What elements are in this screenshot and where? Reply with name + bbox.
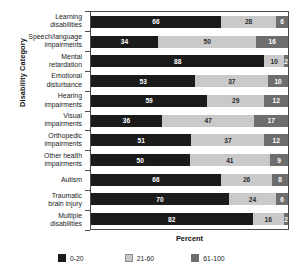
bar-row: 82162 xyxy=(91,209,288,229)
bar-segment-61-100: 17 xyxy=(254,115,287,127)
segment-value-label: 12 xyxy=(272,137,279,144)
stacked-bar: 592912 xyxy=(91,95,288,107)
bar-segment-0-20: 51 xyxy=(91,134,191,146)
segment-value-label: 51 xyxy=(138,137,145,144)
segment-value-label: 12 xyxy=(272,97,279,104)
segment-value-label: 28 xyxy=(245,18,252,25)
chart-title-clipped xyxy=(0,0,299,5)
segment-value-label: 50 xyxy=(204,38,211,45)
plot-area: 6628634501688102533710592912364717513712… xyxy=(90,11,289,230)
segment-value-label: 10 xyxy=(271,58,278,65)
bar-segment-61-100: 16 xyxy=(256,36,288,48)
stacked-bar: 364717 xyxy=(91,115,288,127)
segment-value-label: 36 xyxy=(123,117,130,124)
segment-value-label: 37 xyxy=(224,137,231,144)
category-label: Other healthimpairments xyxy=(0,150,86,170)
bar-segment-0-20: 34 xyxy=(91,36,158,48)
chart-legend: 0-2021-6061-100 xyxy=(58,254,258,262)
bar-segment-61-100: 12 xyxy=(264,95,288,107)
category-label: Traumaticbrain injury xyxy=(0,190,86,210)
segment-value-label: 6 xyxy=(280,18,284,25)
category-label: Learningdisabilities xyxy=(0,11,86,31)
stacked-bar-chart: Disability Category Learningdisabilities… xyxy=(0,0,299,272)
bar-segment-21-60: 29 xyxy=(207,95,264,107)
category-label: Multipledisabilities xyxy=(0,210,86,230)
bar-segment-61-100: 2 xyxy=(284,55,288,67)
bar-segment-21-60: 41 xyxy=(190,154,271,166)
bar-segment-0-20: 82 xyxy=(91,213,253,225)
segment-value-label: 66 xyxy=(152,18,159,25)
category-label: Orthopedicimpairments xyxy=(0,130,86,150)
stacked-bar: 82162 xyxy=(91,213,288,225)
segment-value-label: 29 xyxy=(232,97,239,104)
category-label: Hearingimpairments xyxy=(0,91,86,111)
category-label: Mentalretardation xyxy=(0,51,86,71)
bar-segment-61-100: 6 xyxy=(276,16,288,28)
legend-label: 61-100 xyxy=(203,255,224,262)
legend-item: 0-20 xyxy=(58,254,125,262)
bar-segment-0-20: 66 xyxy=(91,174,221,186)
bar-row: 592912 xyxy=(91,91,288,111)
segment-value-label: 66 xyxy=(152,176,159,183)
bar-segment-21-60: 37 xyxy=(195,75,268,87)
bar-segment-21-60: 24 xyxy=(229,193,276,205)
legend-swatch-icon xyxy=(125,254,133,262)
segment-value-label: 47 xyxy=(205,117,212,124)
segment-value-label: 26 xyxy=(243,176,250,183)
segment-value-label: 37 xyxy=(228,78,235,85)
segment-value-label: 2 xyxy=(284,216,288,223)
bar-segment-0-20: 53 xyxy=(91,75,195,87)
bar-segment-61-100: 9 xyxy=(270,154,288,166)
segment-value-label: 24 xyxy=(249,196,256,203)
axis-tick xyxy=(85,230,90,231)
segment-value-label: 8 xyxy=(278,176,282,183)
bar-segment-21-60: 28 xyxy=(221,16,276,28)
segment-value-label: 53 xyxy=(140,78,147,85)
stacked-bar: 70246 xyxy=(91,193,288,205)
legend-item: 21-60 xyxy=(125,254,192,262)
bar-segment-21-60: 16 xyxy=(253,213,285,225)
category-label-column: LearningdisabilitiesSpeech/languageimpai… xyxy=(0,11,86,230)
segment-value-label: 34 xyxy=(121,38,128,45)
legend-swatch-icon xyxy=(191,254,199,262)
segment-value-label: 10 xyxy=(274,78,281,85)
legend-label: 0-20 xyxy=(70,255,84,262)
segment-value-label: 82 xyxy=(168,216,175,223)
segment-value-label: 88 xyxy=(174,58,181,65)
bar-segment-61-100: 6 xyxy=(276,193,288,205)
stacked-bar: 66268 xyxy=(91,174,288,186)
segment-value-label: 70 xyxy=(156,196,163,203)
bar-segment-21-60: 50 xyxy=(158,36,257,48)
bar-segment-0-20: 59 xyxy=(91,95,207,107)
bar-row: 513712 xyxy=(91,130,288,150)
bar-segment-61-100: 2 xyxy=(284,213,288,225)
category-label: Speech/languageimpairments xyxy=(0,31,86,51)
segment-value-label: 6 xyxy=(280,196,284,203)
bar-segment-21-60: 37 xyxy=(191,134,264,146)
segment-value-label: 17 xyxy=(268,117,275,124)
bar-segment-0-20: 88 xyxy=(91,55,264,67)
category-label: Visualimpairments xyxy=(0,111,86,131)
legend-item: 61-100 xyxy=(191,254,258,262)
legend-swatch-icon xyxy=(58,254,66,262)
bar-row: 533710 xyxy=(91,71,288,91)
bar-row: 66286 xyxy=(91,12,288,32)
segment-value-label: 16 xyxy=(265,216,272,223)
stacked-bar: 513712 xyxy=(91,134,288,146)
bar-row: 88102 xyxy=(91,51,288,71)
legend-label: 21-60 xyxy=(137,255,154,262)
bar-row: 364717 xyxy=(91,111,288,131)
category-label: Autism xyxy=(0,170,86,190)
stacked-bar: 66286 xyxy=(91,16,288,28)
bar-rows: 6628634501688102533710592912364717513712… xyxy=(91,12,288,229)
bar-segment-61-100: 10 xyxy=(268,75,288,87)
category-label: Emotionaldisturbance xyxy=(0,71,86,91)
bar-segment-0-20: 50 xyxy=(91,154,190,166)
segment-value-label: 16 xyxy=(269,38,276,45)
bar-segment-21-60: 26 xyxy=(221,174,272,186)
x-axis-title: Percent xyxy=(90,234,289,243)
bar-row: 66268 xyxy=(91,170,288,190)
segment-value-label: 2 xyxy=(284,58,288,65)
segment-value-label: 50 xyxy=(137,157,144,164)
segment-value-label: 9 xyxy=(277,157,281,164)
